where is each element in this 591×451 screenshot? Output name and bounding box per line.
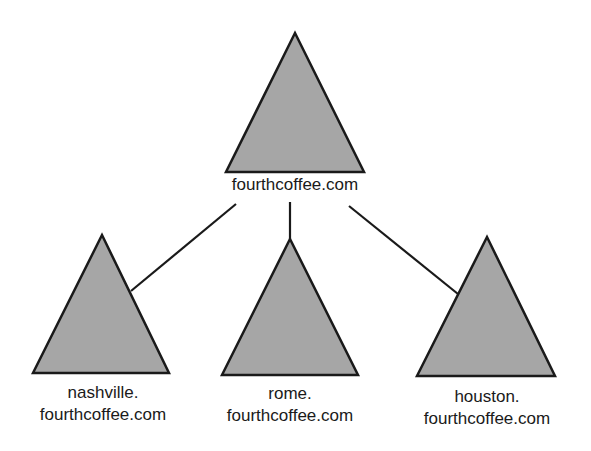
root-domain-triangle-icon (226, 33, 364, 172)
rome-domain-label: rome. fourthcoffee.com (190, 383, 390, 427)
nashville-domain-triangle-icon (33, 235, 169, 373)
rome-domain-triangle-icon (222, 239, 358, 375)
houston-domain-triangle-icon (417, 237, 555, 376)
nashville-label-line1: nashville. (3, 382, 203, 404)
root-domain-label: fourthcoffee.com (195, 174, 395, 196)
nashville-label-line2: fourthcoffee.com (3, 404, 203, 426)
connector-root-nashville (131, 204, 236, 291)
houston-label-line1: houston. (387, 386, 587, 408)
houston-label-line2: fourthcoffee.com (387, 408, 587, 430)
rome-label-line1: rome. (190, 383, 390, 405)
rome-label-line2: fourthcoffee.com (190, 405, 390, 427)
houston-domain-label: houston. fourthcoffee.com (387, 386, 587, 430)
connector-root-houston (349, 206, 458, 294)
nashville-domain-label: nashville. fourthcoffee.com (3, 382, 203, 426)
